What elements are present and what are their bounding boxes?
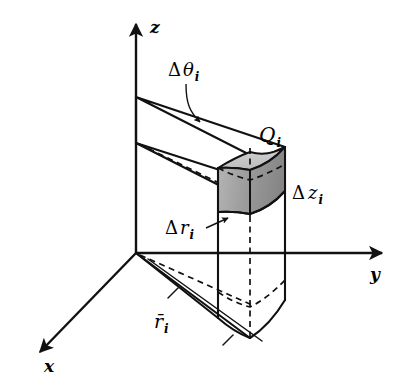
y-axis-label: y bbox=[369, 264, 381, 284]
delta-r-var: r bbox=[180, 217, 190, 238]
cylindrical-volume-element-diagram: z y x Δθi Qi Δzi bbox=[0, 0, 404, 389]
delta-z-var: z bbox=[307, 182, 318, 203]
axes-group bbox=[40, 24, 382, 352]
qi-left-face bbox=[218, 168, 250, 214]
svg-text:Δzi: Δzi bbox=[292, 182, 323, 207]
delta-theta-label: Δθi bbox=[168, 59, 200, 84]
r-bar-sub: i bbox=[164, 322, 169, 336]
qi-var: Q bbox=[259, 123, 275, 147]
delta-z-sub: i bbox=[318, 193, 323, 207]
r-bar-label: r̄i bbox=[154, 310, 169, 336]
svg-text:Δri: Δri bbox=[165, 217, 195, 242]
delta-theta-var: θ bbox=[183, 59, 194, 80]
x-axis-label: x bbox=[43, 356, 55, 376]
r-bar-tick-end bbox=[223, 335, 233, 345]
labels-group: z y x Δθi Qi Δzi bbox=[43, 17, 381, 376]
z-axis-label: z bbox=[149, 17, 160, 37]
delta-theta-delta: Δ bbox=[168, 59, 181, 80]
delta-z-label: Δzi bbox=[292, 182, 323, 207]
qi-sub: i bbox=[276, 136, 281, 150]
delta-r-sub: i bbox=[190, 228, 195, 242]
delta-r-label: Δri bbox=[165, 217, 195, 242]
r-bar-tick-start bbox=[168, 288, 178, 298]
svg-text:Δθi: Δθi bbox=[168, 59, 200, 84]
x-axis bbox=[40, 253, 136, 352]
shaded-volume-element bbox=[218, 147, 285, 216]
delta-r-delta: Δ bbox=[165, 217, 178, 238]
svg-text:Qi: Qi bbox=[259, 123, 281, 150]
figure-canvas: z y x Δθi Qi Δzi bbox=[0, 0, 404, 389]
delta-theta-sub: i bbox=[195, 70, 200, 84]
svg-text:r̄i: r̄i bbox=[154, 310, 169, 336]
delta-z-delta: Δ bbox=[292, 182, 305, 203]
qi-label: Qi bbox=[259, 123, 281, 150]
